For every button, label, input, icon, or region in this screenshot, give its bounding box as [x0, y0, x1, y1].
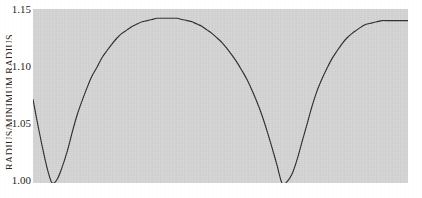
- y-tick-label-3: 1.05: [0, 117, 31, 129]
- plot-area: [33, 9, 408, 183]
- y-axis-label-clip: RADIUS/MINIMUM RADIUS: [0, 0, 12, 198]
- y-tick-label-4: 1.00: [0, 174, 31, 186]
- figure-canvas: RADIUS/MINIMUM RADIUS 1.15 1.10 1.05 1.0…: [0, 0, 422, 198]
- data-curve-svg: [33, 9, 408, 183]
- y-axis-label: RADIUS/MINIMUM RADIUS: [4, 2, 12, 198]
- y-tick-label-1: 1.15: [0, 3, 31, 15]
- y-tick-label-2: 1.10: [0, 60, 31, 72]
- data-curve-path: [33, 18, 408, 183]
